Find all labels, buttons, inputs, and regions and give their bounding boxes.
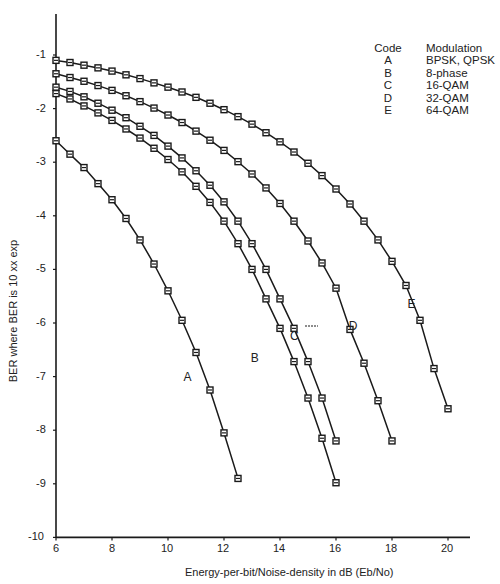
legend-modulation: 64-QAM bbox=[418, 104, 500, 116]
curve-label-B: B bbox=[251, 351, 259, 365]
curve-label-A: A bbox=[184, 370, 192, 384]
y-tick-label: -4 bbox=[36, 209, 46, 221]
legend-modulation: 8-phase bbox=[418, 67, 500, 79]
legend-code: B bbox=[358, 67, 418, 79]
y-tick-label: -2 bbox=[36, 102, 46, 114]
legend-code: A bbox=[358, 54, 418, 66]
y-tick-label: -1 bbox=[36, 48, 46, 60]
x-tick-label: 6 bbox=[53, 542, 59, 554]
y-tick-label: -3 bbox=[36, 155, 46, 167]
legend-modulation: 32-QAM bbox=[418, 92, 500, 104]
legend-row: C 16-QAM bbox=[358, 79, 500, 91]
legend-code: E bbox=[358, 104, 418, 116]
series-D bbox=[53, 71, 395, 444]
legend-code: D bbox=[358, 92, 418, 104]
legend-row: D 32-QAM bbox=[358, 92, 500, 104]
legend-header-code: Code bbox=[358, 42, 418, 54]
legend-modulation: 16-QAM bbox=[418, 79, 500, 91]
legend-header-modulation: Modulation bbox=[418, 42, 500, 54]
curve-label-C: C bbox=[290, 329, 299, 343]
legend: Code Modulation A BPSK, QPSK B 8-phase C… bbox=[358, 42, 500, 116]
curve-label-D: D bbox=[349, 319, 358, 333]
y-axis-label: BER where BER is 10 xx exp bbox=[7, 206, 19, 416]
curve-label-E: E bbox=[408, 297, 416, 311]
legend-modulation: BPSK, QPSK bbox=[418, 54, 500, 66]
x-tick-label: 10 bbox=[161, 542, 173, 554]
x-tick-label: 14 bbox=[273, 542, 285, 554]
y-tick-label: -8 bbox=[36, 423, 46, 435]
y-tick-label: -7 bbox=[36, 370, 46, 382]
x-tick-label: 16 bbox=[329, 542, 341, 554]
x-axis-label: Energy-per-bit/Noise-density in dB (Eb/N… bbox=[185, 566, 393, 578]
legend-header: Code Modulation bbox=[358, 42, 500, 54]
x-tick-label: 8 bbox=[109, 542, 115, 554]
y-tick-label: -10 bbox=[28, 530, 44, 542]
legend-row: E 64-QAM bbox=[358, 104, 500, 116]
legend-code: C bbox=[358, 79, 418, 91]
legend-row: B 8-phase bbox=[358, 67, 500, 79]
x-tick-label: 20 bbox=[441, 542, 453, 554]
series-C bbox=[53, 84, 339, 444]
legend-row: A BPSK, QPSK bbox=[358, 54, 500, 66]
series-group bbox=[53, 57, 451, 485]
x-tick-label: 18 bbox=[385, 542, 397, 554]
x-tick-label: 12 bbox=[217, 542, 229, 554]
y-tick-label: -9 bbox=[36, 477, 46, 489]
y-tick-label: -6 bbox=[36, 316, 46, 328]
y-tick-label: -5 bbox=[36, 262, 46, 274]
